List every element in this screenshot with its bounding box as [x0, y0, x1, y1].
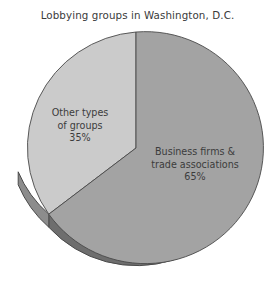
- slice-label-business: Business firms & trade associations 65%: [140, 146, 250, 184]
- slice-label-business-line2: trade associations: [140, 159, 250, 172]
- slice-label-business-line1: Business firms &: [140, 146, 250, 159]
- slice-label-other-value: 35%: [30, 132, 130, 145]
- slice-label-business-value: 65%: [140, 171, 250, 184]
- slice-label-other-line1: Other types: [30, 107, 130, 120]
- pie-chart-figure: Lobbying groups in Washington, D.C. Othe…: [0, 0, 275, 285]
- slice-label-other-line2: of groups: [30, 120, 130, 133]
- slice-label-other: Other types of groups 35%: [30, 107, 130, 145]
